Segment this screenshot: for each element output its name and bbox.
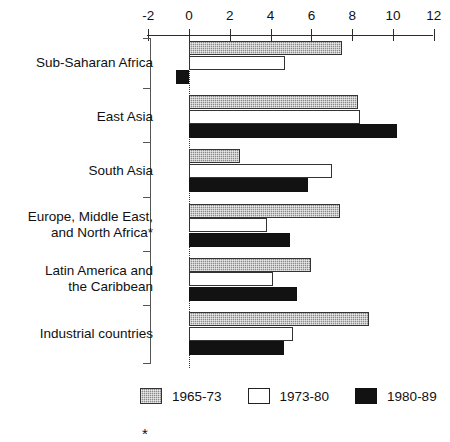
x-axis-tick-label: 12 [426,8,441,23]
legend-swatch [248,388,270,404]
bar-0 [189,204,340,218]
x-axis-tick [271,29,272,41]
x-axis-tick-label: 2 [226,8,234,23]
category-separator-tick [143,88,151,89]
x-axis-tick-label: 0 [185,8,193,23]
x-axis-tick-label: 8 [348,8,356,23]
category-label: Europe, Middle East, and North Africa* [28,209,153,241]
bar-0 [189,41,342,55]
bar-2 [176,70,189,84]
bar-2 [189,124,397,138]
x-axis-tick-label: 4 [267,8,275,23]
x-axis-tick [434,29,435,41]
bar-2 [189,178,308,192]
x-axis-tick [311,29,312,41]
bar-0 [189,312,369,326]
x-axis-tick-label: -2 [142,8,154,23]
bracket-top-cap [143,38,151,39]
legend-label: 1980-89 [387,389,437,404]
x-axis-tick [352,29,353,41]
bar-1 [189,218,267,232]
chart-legend: 1965-731973-801980-89 [140,388,450,404]
bar-chart: -2024681012 Sub-Saharan AfricaEast AsiaS… [0,0,450,442]
bracket-bottom-cap [143,363,151,364]
category-separator-tick [143,251,151,252]
bar-0 [189,149,240,163]
legend-label: 1973-80 [280,389,330,404]
category-label: South Asia [88,163,153,179]
legend-swatch [355,388,377,404]
legend-item: 1965-73 [140,388,222,404]
category-separator-tick [143,197,151,198]
legend-label: 1965-73 [172,389,222,404]
legend-item: 1980-89 [355,388,437,404]
category-label: Industrial countries [40,326,153,342]
category-separator-tick [143,305,151,306]
category-label: Latin America and the Caribbean [45,263,153,295]
category-label: Sub-Saharan Africa [36,55,153,71]
bar-0 [189,258,311,272]
bar-1 [189,110,360,124]
bar-1 [189,272,273,286]
legend-item: 1973-80 [248,388,330,404]
bar-0 [189,95,358,109]
footnote-asterisk: * [142,425,148,442]
bar-2 [189,341,284,355]
category-separator-tick [143,142,151,143]
bar-2 [189,287,297,301]
bar-1 [189,56,285,70]
x-axis-tick-label: 10 [385,8,400,23]
legend-swatch [140,388,162,404]
x-axis-tick [393,29,394,41]
bar-1 [189,327,293,341]
category-label: East Asia [97,109,153,125]
category-bracket [150,38,151,363]
x-axis-tick-label: 6 [308,8,316,23]
bar-2 [189,233,290,247]
bar-1 [189,164,332,178]
x-axis-tick [230,29,231,41]
